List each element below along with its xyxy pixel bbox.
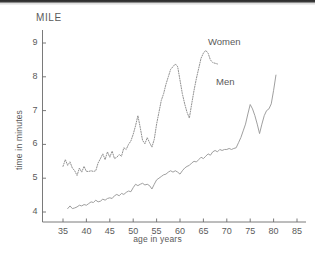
x-tick-70: 70 [215,226,239,236]
y-tick-5: 5 [24,172,38,182]
y-tick-9: 9 [24,37,38,47]
chart-plot-area [0,0,315,262]
x-tick-40: 40 [74,226,98,236]
series-label-women: Women [208,36,241,47]
y-tick-8: 8 [24,71,38,81]
series-line-women [63,50,217,175]
x-tick-85: 85 [285,226,309,236]
y-tick-7: 7 [24,105,38,115]
x-tick-60: 60 [168,226,192,236]
x-tick-45: 45 [98,226,122,236]
chart-title: MILE [36,12,62,23]
x-tick-65: 65 [191,226,215,236]
x-tick-35: 35 [51,226,75,236]
y-tick-4: 4 [24,206,38,216]
y-axis-title: time in minutes [14,95,24,185]
series-line-men [68,75,276,209]
x-tick-75: 75 [238,226,262,236]
x-tick-80: 80 [262,226,286,236]
chart-figure: MILE Women Men age in years time in minu… [0,0,315,262]
series-label-men: Men [216,76,234,87]
x-tick-55: 55 [145,226,169,236]
x-tick-50: 50 [121,226,145,236]
y-tick-6: 6 [24,138,38,148]
